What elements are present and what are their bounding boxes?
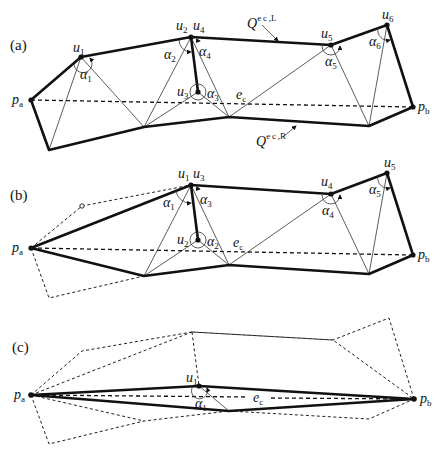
- lower-chain: [31, 248, 413, 276]
- label-u5: u5: [321, 26, 333, 43]
- point-pa: [28, 392, 34, 398]
- label-pa: pa: [11, 240, 23, 257]
- panel-b: (b) pa pb u1: [10, 155, 430, 298]
- vertex-u5: [384, 170, 389, 175]
- point-pb: [410, 104, 415, 109]
- previous-upper-chain-b: [31, 332, 192, 395]
- label-alpha1: α1: [163, 195, 175, 212]
- panel-a: (a): [10, 7, 430, 150]
- label-u4: u4: [193, 18, 205, 35]
- vertex-u1-u3: [188, 182, 193, 187]
- label-pb: pb: [417, 99, 430, 116]
- arrow-q-left: [262, 25, 278, 41]
- angle-arc-a1: [176, 190, 191, 203]
- polygon-folding-diagram: (a): [0, 0, 445, 455]
- point-pb: [411, 396, 417, 402]
- previous-upper-chain-c: [192, 332, 414, 399]
- label-q-right: Qe c ,R: [256, 131, 286, 149]
- label-u1: u1: [73, 40, 85, 57]
- label-pb: pb: [417, 247, 430, 264]
- label-u3: u3: [193, 166, 205, 183]
- label-pa: pa: [13, 387, 25, 404]
- angle-arc-a3: [196, 189, 200, 190]
- label-alpha3: α3: [207, 86, 219, 103]
- angle-arc-a4: [196, 41, 200, 42]
- panel-label-b: (b): [10, 187, 28, 204]
- label-alpha1: α1: [195, 396, 207, 413]
- label-u6: u6: [382, 7, 394, 24]
- label-ec: ec: [233, 235, 243, 252]
- label-alpha2: α2: [207, 234, 219, 251]
- baseline-edge: [31, 100, 413, 107]
- panel-label-a: (a): [10, 37, 27, 54]
- baseline-edge: [31, 248, 413, 255]
- vertex-u3: [195, 89, 200, 94]
- point-pa: [28, 97, 33, 102]
- panel-label-c: (c): [12, 339, 29, 356]
- label-alpha4: α4: [322, 203, 334, 220]
- label-u3: u3: [177, 84, 189, 101]
- label-u5: u5: [384, 155, 396, 172]
- label-u1: u1: [186, 370, 198, 387]
- label-u2: u2: [177, 232, 189, 249]
- upper-chain: [31, 25, 413, 107]
- label-ec: ec: [236, 87, 246, 104]
- label-u1: u1: [178, 166, 190, 183]
- vertex-u2-u4: [188, 34, 193, 39]
- point-pa: [28, 245, 33, 250]
- label-alpha2: α2: [164, 47, 176, 64]
- label-q-left: Qe c ,L: [247, 13, 276, 31]
- label-alpha4: α4: [199, 44, 211, 61]
- lower-chain: [31, 100, 413, 150]
- point-pb: [410, 252, 415, 257]
- panel-c: (c) pa pb u1 α1 ec: [12, 318, 432, 444]
- angle-arc-a2: [179, 40, 191, 52]
- label-u4: u4: [321, 174, 333, 191]
- previous-vertex: [80, 204, 84, 208]
- upper-chain: [31, 173, 413, 255]
- vertex-u2: [195, 237, 200, 242]
- label-pa: pa: [11, 92, 23, 109]
- label-u2: u2: [176, 18, 188, 35]
- label-alpha3: α3: [200, 192, 212, 209]
- label-alpha5: α5: [325, 54, 337, 71]
- label-ec: ec: [253, 390, 263, 407]
- vertex-u4: [328, 191, 333, 196]
- label-pb: pb: [419, 391, 432, 408]
- vertex-u5: [328, 42, 333, 47]
